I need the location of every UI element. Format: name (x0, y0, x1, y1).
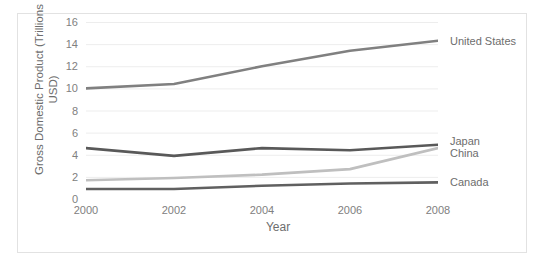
plot-svg (86, 22, 438, 199)
x-axis-tick-2008: 2008 (408, 204, 468, 216)
x-axis-title: Year (88, 220, 468, 234)
y-axis-tick-12: 12 (52, 61, 78, 72)
series-label-canada: Canada (450, 177, 489, 188)
series-line-japan (86, 145, 438, 156)
y-axis-tick-6: 6 (52, 128, 78, 139)
series-label-united-states: United States (450, 36, 516, 47)
y-axis-tick-8: 8 (52, 106, 78, 117)
gridlines (86, 23, 438, 200)
x-axis-tick-2004: 2004 (232, 204, 292, 216)
y-axis-tick-16: 16 (52, 17, 78, 28)
series-line-united-states (86, 41, 438, 89)
y-axis-tick-4: 4 (52, 150, 78, 161)
x-axis-tick-2002: 2002 (144, 204, 204, 216)
series-line-canada (86, 182, 438, 189)
y-axis-tick-10: 10 (52, 83, 78, 94)
y-axis-tick-2: 2 (52, 172, 78, 183)
series-label-china: China (450, 148, 479, 159)
series-lines (86, 41, 438, 189)
plot-area (86, 22, 438, 199)
y-axis-tick-14: 14 (52, 39, 78, 50)
x-axis-tick-2000: 2000 (56, 204, 116, 216)
x-axis-tick-2006: 2006 (320, 204, 380, 216)
series-label-japan: Japan (450, 136, 480, 147)
chart-container: Gross Domestic Product (Trillions USD) Y… (17, 13, 527, 253)
